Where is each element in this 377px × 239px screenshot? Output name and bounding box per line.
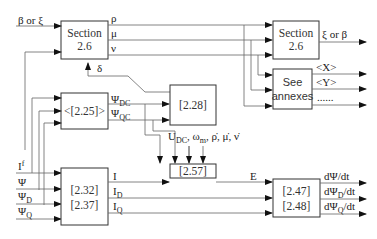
annex-output-more: ...... <box>317 91 334 103</box>
input-psi-d: ΨD <box>18 190 32 205</box>
block-diagram: Section 2.6 β or ξ ρ μ ν δ Section 2.6 ξ… <box>0 0 377 239</box>
section-2-6-label-1: Section <box>67 27 102 39</box>
input-beta-or-xi: β or ξ <box>18 14 43 27</box>
block-2-25-label: <[2.25]> <box>64 105 105 117</box>
block-2-48-label: [2.48] <box>283 200 311 212</box>
section-2-6-output-label-1: Section <box>279 27 314 39</box>
input-if: If <box>18 159 25 172</box>
output-dpsi-dt: dΨ/dt <box>324 170 349 182</box>
output-rho: ρ <box>111 12 117 24</box>
annexes-label-1: See <box>283 76 303 88</box>
block-2-57-label: [2.57] <box>179 165 207 177</box>
psi-dc-label: ΨDC <box>111 93 130 108</box>
block-2-32-2-37 <box>61 168 108 225</box>
current-i: I <box>113 170 117 182</box>
output-dpsid-dt: dΨD/dt <box>324 185 355 200</box>
output-dpsiq-dt: dΨQ/dt <box>324 200 355 215</box>
output-xi-or-beta: ξ or β <box>322 28 348 41</box>
annex-output-y: <Y> <box>316 76 336 88</box>
output-mu: μ <box>111 27 117 39</box>
annexes-label-2: annexes <box>272 90 314 102</box>
annex-output-x: <X> <box>316 61 336 73</box>
e-label: E <box>250 170 257 182</box>
input-psi-q: ΨQ <box>18 205 32 220</box>
aux-inputs-label: UDC, ωm, ρ̇, μ̇, ν̇ <box>168 130 240 145</box>
section-2-6-label-2: 2.6 <box>77 40 92 52</box>
block-2-47-label: [2.47] <box>283 185 311 197</box>
block-2-28-label: [2.28] <box>179 99 207 111</box>
feedback-delta: δ <box>97 62 102 74</box>
section-2-6-output-label-2: 2.6 <box>289 40 304 52</box>
block-2-37-label: [2.37] <box>71 199 99 211</box>
annexes-block <box>273 69 312 109</box>
output-nu: ν <box>111 42 116 54</box>
input-psi: Ψ <box>18 176 27 188</box>
block-2-32-label: [2.32] <box>71 184 99 196</box>
